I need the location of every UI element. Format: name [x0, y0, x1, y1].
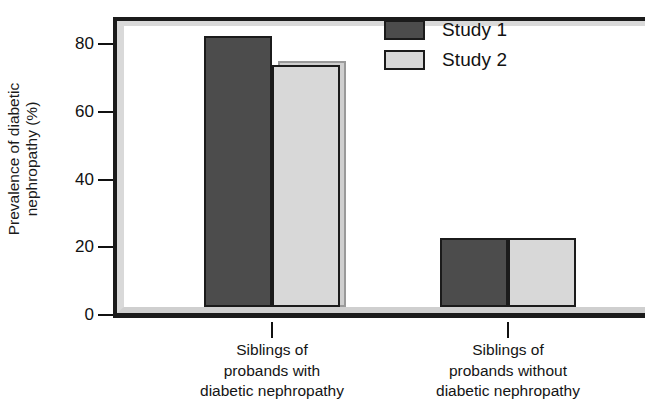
x-axis-category-label-line: Siblings of [393, 340, 623, 361]
y-axis-tick-mark [98, 246, 113, 248]
bar-chart-figure: Prevalence of diabetic nephropathy (%) 0… [0, 0, 645, 402]
legend-swatch-icon [384, 20, 425, 40]
plot-frame-inner-bevel [117, 21, 645, 313]
x-axis-category-label-line: probands with [157, 361, 387, 382]
y-axis-tick-mark [98, 43, 113, 45]
x-axis-category-label: Siblings ofprobands withoutdiabetic neph… [393, 340, 623, 402]
bar-study-2-group-1 [272, 65, 340, 307]
y-axis-tick-mark [98, 314, 113, 316]
legend-label: Study 2 [442, 49, 507, 71]
legend: Study 1Study 2 [384, 16, 507, 76]
y-axis-title: Prevalence of diabetic nephropathy (%) [0, 0, 46, 320]
y-axis-title-line-1: Prevalence of diabetic [5, 83, 23, 236]
x-axis-tick-mark [271, 322, 273, 338]
bar-study-1-group-2 [440, 238, 508, 307]
bar-study-2-group-2 [508, 238, 576, 307]
y-axis-tick-labels: 020406080 [52, 0, 94, 402]
legend-label: Study 1 [442, 19, 507, 41]
y-axis-title-line-2: nephropathy (%) [23, 102, 41, 217]
x-axis-category-label: Siblings ofprobands withdiabetic nephrop… [157, 340, 387, 402]
x-axis-tick-mark [507, 322, 509, 338]
legend-swatch-icon [384, 50, 425, 70]
bar-study-1-group-1 [204, 36, 272, 307]
legend-item: Study 1 [384, 16, 507, 44]
x-axis-category-label-line: Siblings of [157, 340, 387, 361]
x-axis-category-label-line: diabetic nephropathy [393, 381, 623, 402]
x-axis-category-label-line: diabetic nephropathy [157, 381, 387, 402]
y-axis-tick-label: 80 [60, 34, 94, 54]
plot-frame [113, 17, 645, 318]
y-axis-tick-mark [98, 111, 113, 113]
x-axis-category-label-line: probands without [393, 361, 623, 382]
y-axis-tick-label: 60 [60, 102, 94, 122]
legend-item: Study 2 [384, 46, 507, 74]
y-axis-tick-label: 0 [60, 305, 94, 325]
y-axis-tick-label: 20 [60, 237, 94, 257]
y-axis-tick-label: 40 [60, 170, 94, 190]
y-axis-tick-mark [98, 179, 113, 181]
